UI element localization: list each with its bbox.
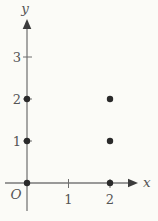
math-figure: 12123 y x O [0, 0, 158, 221]
x-axis-arrowhead [128, 179, 138, 188]
y-tick-label: 2 [13, 92, 21, 107]
data-point [24, 138, 30, 144]
x-tick-label: 2 [106, 192, 114, 207]
y-tick-label: 3 [13, 50, 21, 65]
x-tick-label: 1 [64, 192, 72, 207]
points-layer [24, 96, 113, 186]
data-point [24, 96, 30, 102]
data-point [107, 138, 113, 144]
data-point [107, 96, 113, 102]
x-axis-label: x [143, 174, 151, 190]
y-tick-label: 1 [13, 134, 21, 149]
coordinate-plane: 12123 y x O [0, 0, 158, 221]
y-axis-arrowhead [23, 19, 32, 29]
data-point [107, 180, 113, 186]
data-point [24, 180, 30, 186]
y-axis-label: y [20, 0, 29, 16]
origin-label: O [10, 186, 21, 202]
